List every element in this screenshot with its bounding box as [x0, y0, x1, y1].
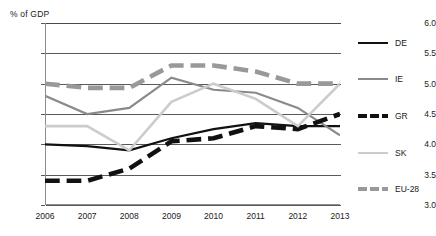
y-axis-tick-label: 6.0	[396, 18, 436, 28]
legend-item-ie[interactable]: IE	[358, 72, 403, 86]
y-axis-tick-mark	[41, 205, 45, 206]
legend-label: EU-28	[395, 184, 419, 194]
legend-item-sk[interactable]: SK	[358, 146, 406, 160]
y-axis-unit-label: % of GDP	[10, 9, 49, 19]
legend-label: SK	[395, 148, 406, 158]
x-axis-tick-label: 2008	[120, 211, 139, 221]
series-layer	[45, 23, 340, 205]
legend-label: DE	[395, 38, 407, 48]
legend-swatch-gr	[358, 114, 388, 118]
legend-label: GR	[395, 111, 408, 121]
legend-swatch-de	[358, 42, 388, 44]
x-axis-tick-label: 2007	[78, 211, 97, 221]
legend-item-eu-28[interactable]: EU-28	[358, 182, 419, 196]
y-axis-tick-label: 3.0	[396, 200, 436, 210]
legend-label: IE	[395, 74, 403, 84]
gridline	[46, 205, 341, 206]
legend-item-gr[interactable]: GR	[358, 109, 408, 123]
legend-swatch-eu-28	[358, 187, 388, 191]
legend-swatch-ie	[358, 78, 388, 80]
x-axis-tick-label: 2011	[247, 211, 265, 221]
x-axis-tick-label: 2010	[204, 211, 223, 221]
legend-swatch-sk	[358, 152, 388, 154]
chart-container: % of GDP 6.05.55.04.54.03.53.0 200620072…	[0, 0, 436, 236]
x-axis-tick-label: 2012	[288, 211, 307, 221]
x-axis-tick-label: 2009	[162, 211, 181, 221]
x-axis-tick-label: 2006	[36, 211, 55, 221]
legend-item-de[interactable]: DE	[358, 36, 407, 50]
y-axis-tick-label: 3.5	[396, 170, 436, 180]
x-axis-tick-label: 2013	[331, 211, 350, 221]
